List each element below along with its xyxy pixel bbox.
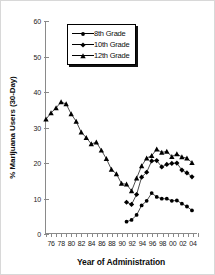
x-tick [193, 233, 194, 237]
x-tick [92, 233, 93, 237]
y-tick-label: 20 [34, 160, 41, 167]
x-tick [142, 233, 143, 237]
legend-diamond-icon [72, 39, 94, 50]
y-tick-label: 30 [34, 124, 41, 131]
x-tick [66, 233, 67, 237]
x-tick-label: 80 [68, 240, 75, 247]
x-tick [127, 233, 128, 237]
x-tick [188, 233, 189, 237]
x-tick-label: 00 [169, 240, 176, 247]
series-12th-grade [43, 99, 194, 193]
x-tick-label: 88 [108, 240, 115, 247]
x-tick [87, 233, 88, 237]
x-tick [112, 233, 113, 237]
x-tick [122, 233, 123, 237]
x-tick [198, 233, 199, 237]
legend-item: 8th Grade [72, 28, 130, 39]
x-tick-label: 94 [139, 240, 146, 247]
y-tick-label: 40 [34, 89, 41, 96]
x-tick [168, 233, 169, 237]
x-tick [56, 233, 57, 237]
x-tick-label: 76 [47, 240, 54, 247]
y-axis-title: % Marijuana Users (30-Day) [7, 21, 19, 234]
x-axis-title: Year of Administration [45, 257, 197, 267]
x-tick [157, 233, 158, 237]
x-tick-label: 92 [129, 240, 136, 247]
legend-item-label: 12th Grade [94, 51, 130, 60]
x-tick [178, 233, 179, 237]
chart-figure: % Marijuana Users (30-Day) 0102030405060… [0, 0, 215, 275]
x-tick [107, 233, 108, 237]
x-tick [102, 233, 103, 237]
x-tick-label: 96 [149, 240, 156, 247]
x-tick [137, 233, 138, 237]
legend-triangle-icon [72, 50, 94, 61]
y-tick-label: 50 [34, 53, 41, 60]
x-tick [76, 233, 77, 237]
y-tick-label: 10 [34, 195, 41, 202]
x-tick [97, 233, 98, 237]
x-tick [61, 233, 62, 237]
y-tick-label: 0 [37, 231, 41, 238]
x-tick [152, 233, 153, 237]
legend-item: 10th Grade [72, 39, 130, 50]
x-tick [46, 233, 47, 237]
x-tick-label: 02 [179, 240, 186, 247]
x-tick-label: 84 [88, 240, 95, 247]
x-tick [117, 233, 118, 237]
x-tick-label: 86 [98, 240, 105, 247]
x-tick [132, 233, 133, 237]
legend-item: 12th Grade [72, 50, 130, 61]
x-tick-label: 90 [118, 240, 125, 247]
x-tick [71, 233, 72, 237]
chart-legend: 8th Grade10th Grade12th Grade [67, 24, 136, 65]
x-tick-label: 98 [159, 240, 166, 247]
x-tick-label: 04 [189, 240, 196, 247]
series-10th-grade [124, 158, 195, 207]
y-tick-label: 60 [34, 18, 41, 25]
x-tick [163, 233, 164, 237]
x-tick [183, 233, 184, 237]
legend-item-label: 10th Grade [94, 40, 130, 49]
x-tick [147, 233, 148, 237]
x-tick [51, 233, 52, 237]
series-8th-grade [125, 191, 194, 223]
x-tick [81, 233, 82, 237]
legend-item-label: 8th Grade [94, 29, 126, 38]
x-tick-label: 78 [58, 240, 65, 247]
legend-circle-icon [72, 28, 94, 39]
x-tick [173, 233, 174, 237]
x-tick-label: 82 [78, 240, 85, 247]
